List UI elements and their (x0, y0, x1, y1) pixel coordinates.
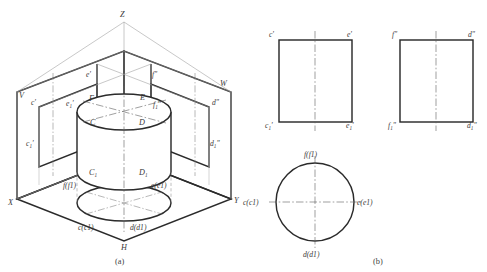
side-view-label-d-dprime: d" (468, 30, 476, 39)
plane-label-h: H (120, 243, 128, 252)
pictorial-label-c-c1: c(c1) (78, 223, 94, 232)
front-view-label-e-prime: e' (347, 30, 352, 39)
pictorial-label-d-d1: d(d1) (130, 223, 147, 232)
pictorial-label-f-f1: f(f1) (63, 181, 77, 190)
plane-label-w: W (220, 79, 228, 88)
pictorial-label-E: E (139, 93, 145, 102)
caption-a: (a) (115, 257, 125, 266)
pictorial-label-D: D (138, 118, 145, 127)
side-view-label-f1-dprime: f1" (388, 121, 397, 131)
axis-label-x: X (7, 198, 14, 207)
top-view-label-e-e1: e(e1) (357, 198, 373, 207)
axis-label-z: Z (120, 10, 125, 19)
top-view-label-d-d1: d(d1) (303, 250, 320, 259)
technical-drawing-figure: Z X Y H V W c' e' c1' e1' f" d" f1" d1" … (0, 0, 487, 272)
front-view-label-c-prime: c' (269, 30, 274, 39)
pictorial-label-f1-dprime: f1" (153, 100, 162, 110)
pictorial-label-e-prime: e' (86, 70, 91, 79)
pictorial-label-f-dprime: f" (152, 70, 158, 79)
top-view-label-f-f1: f(f1) (304, 150, 318, 159)
pictorial-label-e-e1: e(e1) (151, 181, 167, 190)
pictorial-label-d-dprime: d" (212, 98, 220, 107)
canvas-background (0, 0, 487, 272)
side-view-label-f-dprime: f" (392, 30, 398, 39)
pictorial-label-C: C (90, 118, 96, 127)
top-view-label-c-c1: c(c1) (243, 198, 259, 207)
pictorial-label-F: F (88, 94, 95, 103)
pictorial-label-c-prime: c' (31, 98, 36, 107)
caption-b: (b) (373, 257, 383, 266)
figure-canvas: Z X Y H V W c' e' c1' e1' f" d" f1" d1" … (0, 0, 487, 272)
